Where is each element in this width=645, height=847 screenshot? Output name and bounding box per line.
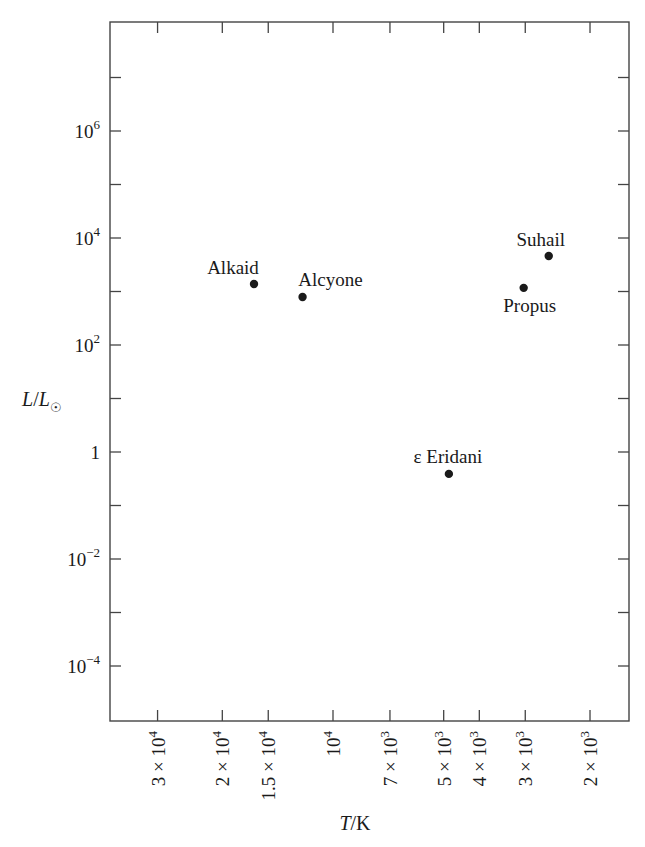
star-marker xyxy=(250,280,258,288)
star-marker xyxy=(519,284,527,292)
y-tick-label: 104 xyxy=(75,224,101,249)
x-axis-title: T/K xyxy=(339,812,371,834)
data-points: AlkaidAlcyoneSuhailPropusε Eridani xyxy=(207,229,565,478)
y-tick-label: 106 xyxy=(75,117,101,142)
x-tick-label: 7 × 103 xyxy=(377,731,401,786)
hr-diagram-chart: 3 × 1042 × 1041.5 × 1041047 × 1035 × 103… xyxy=(0,0,645,847)
x-tick-label: 3 × 104 xyxy=(145,731,169,787)
star-marker xyxy=(445,470,453,478)
x-axis: 3 × 1042 × 1041.5 × 1041047 × 1035 × 103… xyxy=(145,22,601,800)
y-tick-label: 102 xyxy=(75,331,101,356)
y-axis-title: L/L☉ xyxy=(21,388,62,415)
star-label: Alcyone xyxy=(298,269,362,290)
data-point: Suhail xyxy=(516,229,565,260)
data-point: Propus xyxy=(503,284,556,316)
data-point: Alkaid xyxy=(207,257,259,288)
x-tick-label: 1.5 × 104 xyxy=(255,731,279,801)
x-tick-label: 4 × 103 xyxy=(466,731,490,786)
y-tick-label: 10−2 xyxy=(67,545,100,570)
star-label: Propus xyxy=(503,295,556,316)
star-label: ε Eridani xyxy=(414,446,483,467)
data-point: ε Eridani xyxy=(414,446,483,478)
star-marker xyxy=(545,252,553,260)
data-point: Alcyone xyxy=(298,269,362,301)
x-tick-label: 3 × 103 xyxy=(512,731,536,786)
x-tick-label: 5 × 103 xyxy=(431,731,455,786)
x-tick-label: 2 × 104 xyxy=(209,731,233,787)
x-tick-label: 104 xyxy=(320,731,344,757)
plot-frame xyxy=(110,22,629,721)
y-tick-label: 1 xyxy=(91,442,101,463)
star-marker xyxy=(298,293,306,301)
y-tick-label: 10−4 xyxy=(67,652,100,677)
x-tick-label: 2 × 103 xyxy=(577,731,601,786)
y-axis: 106104102110−210−4 xyxy=(67,78,629,678)
star-label: Suhail xyxy=(516,229,565,250)
star-label: Alkaid xyxy=(207,257,259,278)
